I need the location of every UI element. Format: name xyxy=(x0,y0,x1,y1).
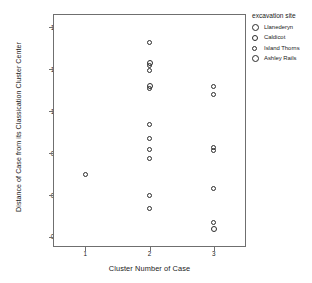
data-point xyxy=(211,92,216,97)
legend-item-label: Caldicot xyxy=(264,34,285,41)
data-point xyxy=(147,147,152,152)
legend-item: Ashley Rails xyxy=(252,54,312,64)
data-point xyxy=(211,186,216,191)
open-circle-icon xyxy=(252,46,257,51)
data-point xyxy=(211,220,216,225)
legend-item: Island Thorns xyxy=(252,43,312,53)
data-point xyxy=(83,172,88,177)
legend-item: Caldicot xyxy=(252,33,312,43)
x-axis-tick-mark xyxy=(214,247,215,251)
y-axis-title: Distance of Case from its Classication C… xyxy=(15,12,23,242)
data-point xyxy=(211,148,216,153)
plot-area xyxy=(53,14,246,247)
open-circle-icon xyxy=(252,24,259,31)
legend-item: Llanederyn xyxy=(252,22,312,32)
x-axis-tick-label: 2 xyxy=(140,250,160,257)
open-circle-icon xyxy=(252,35,258,41)
data-point xyxy=(147,136,152,141)
legend-item-label: Ashley Rails xyxy=(264,55,296,62)
data-point xyxy=(147,63,152,68)
legend-marker-wrapper xyxy=(252,24,264,31)
legend-marker-wrapper xyxy=(252,55,264,62)
data-point xyxy=(147,86,152,91)
legend: excavation site LlanederynCaldicotIsland… xyxy=(252,12,312,64)
data-point xyxy=(147,122,152,127)
data-point xyxy=(147,40,152,45)
x-axis-tick-label: 3 xyxy=(204,250,224,257)
legend-marker-wrapper xyxy=(252,46,264,51)
legend-item-label: Llanederyn xyxy=(264,24,293,31)
x-axis-tick-label: 1 xyxy=(75,250,95,257)
data-point xyxy=(211,84,216,89)
data-point xyxy=(147,206,152,211)
legend-title: excavation site xyxy=(252,12,312,20)
data-point xyxy=(211,226,217,232)
legend-entries: LlanederynCaldicotIsland ThornsAshley Ra… xyxy=(252,22,312,64)
x-axis-title: Cluster Number of Case xyxy=(53,264,246,273)
cluster-distance-scatter-chart: Distance of Case from its Classication C… xyxy=(0,0,312,283)
data-point xyxy=(147,193,152,198)
data-point xyxy=(147,156,152,161)
data-point xyxy=(147,68,152,73)
legend-marker-wrapper xyxy=(252,35,264,41)
x-axis-tick-mark xyxy=(150,247,151,251)
legend-item-label: Island Thorns xyxy=(264,45,300,52)
open-circle-icon xyxy=(252,55,259,62)
x-axis-tick-mark xyxy=(85,247,86,251)
